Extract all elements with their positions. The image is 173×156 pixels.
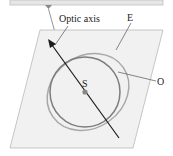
s-label: S <box>82 78 88 89</box>
o-label: O <box>157 76 164 87</box>
e-label: E <box>127 12 133 23</box>
optic-axis-label: Optic axis <box>59 13 100 24</box>
top-bar <box>10 0 163 5</box>
source-dot <box>82 89 87 94</box>
pointer-icon <box>45 5 52 9</box>
birefringence-diagram: Optic axis E O S <box>0 0 173 156</box>
